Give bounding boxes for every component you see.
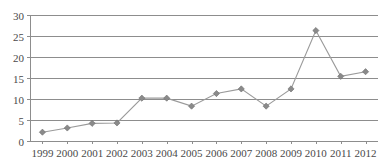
data-point-2001	[89, 120, 95, 126]
x-tick-label-2006: 2006	[205, 147, 228, 159]
y-tick-label-10: 10	[13, 94, 25, 106]
x-tick-label-2000: 2000	[56, 147, 79, 159]
x-tick-label-2011: 2011	[330, 147, 352, 159]
x-tick-label-2005: 2005	[181, 147, 204, 159]
x-tick-label-2004: 2004	[156, 147, 179, 159]
chart-plot-area: 0510152025301999200020012002200320042005…	[0, 0, 384, 167]
data-point-2005	[188, 103, 194, 109]
x-tick-label-2001: 2001	[81, 147, 103, 159]
line-chart: 0510152025301999200020012002200320042005…	[0, 0, 384, 167]
y-tick-label-15: 15	[13, 73, 25, 85]
series-line-path	[42, 31, 365, 133]
y-tick-label-25: 25	[13, 31, 25, 43]
x-tick-label-2012: 2012	[355, 147, 377, 159]
y-tick-label-0: 0	[19, 136, 25, 148]
data-point-2004	[164, 95, 170, 101]
data-point-2006	[213, 90, 219, 96]
x-tick-label-2003: 2003	[131, 147, 154, 159]
x-tick-label-2002: 2002	[106, 147, 128, 159]
y-tick-label-20: 20	[13, 52, 25, 64]
y-tick-label-5: 5	[19, 115, 25, 127]
x-tick-label-2009: 2009	[280, 147, 303, 159]
x-tick-label-2008: 2008	[255, 147, 278, 159]
data-point-2012	[362, 69, 368, 75]
x-tick-label-1999: 1999	[31, 147, 54, 159]
x-tick-label-2007: 2007	[230, 147, 253, 159]
y-tick-label-30: 30	[13, 10, 25, 22]
data-point-1999	[39, 129, 45, 135]
data-point-2010	[313, 27, 319, 33]
data-point-2000	[64, 125, 70, 131]
x-tick-label-2010: 2010	[305, 147, 328, 159]
